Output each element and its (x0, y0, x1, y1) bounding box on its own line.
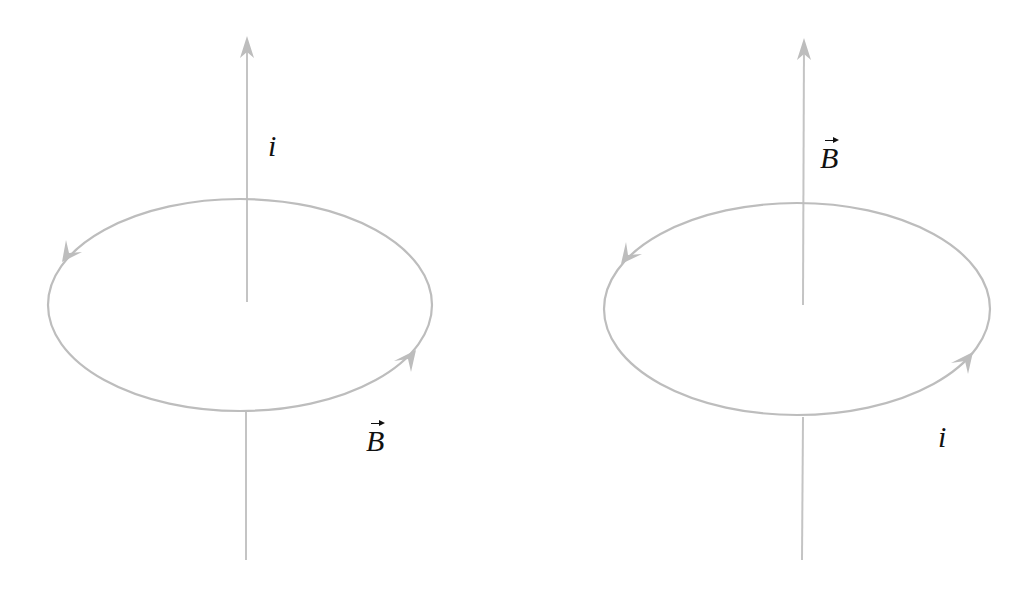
left-axis-label-current: i (268, 131, 276, 161)
left-loop-label-field: B (366, 426, 384, 456)
right-loop (604, 203, 990, 415)
current-symbol: i (268, 129, 276, 162)
right-axis-upper-arrow (797, 38, 811, 305)
right-panel (604, 38, 990, 560)
diagram-canvas (0, 0, 1032, 590)
left-loop (48, 199, 432, 411)
right-loop-label-current: i (938, 422, 946, 452)
right-axis-label-field: B (820, 143, 838, 173)
right-axis-lower-line (802, 417, 803, 560)
loop-arrow-right-icon (394, 350, 416, 372)
loop-arrow-left-icon (62, 240, 82, 262)
magnetic-field-vector-symbol: B (820, 143, 838, 173)
left-panel (48, 36, 432, 560)
current-symbol: i (938, 420, 946, 453)
left-axis-upper-arrow (240, 36, 254, 302)
magnetic-field-vector-symbol: B (366, 426, 384, 456)
